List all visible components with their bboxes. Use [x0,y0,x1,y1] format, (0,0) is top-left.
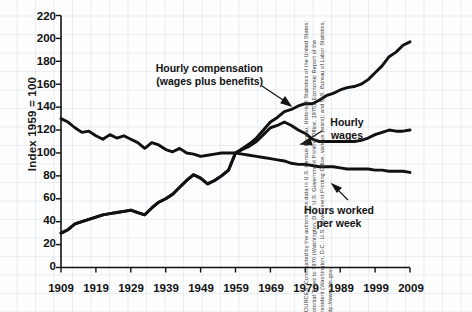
chart-page: Index 1959 = 100 220 200 180 160 140 120… [0,0,472,312]
source-note: SOURCES: Constructed by the authors from… [302,16,334,312]
series-group [61,42,410,233]
series-line-hourly-wages [61,122,410,233]
axes-group [56,16,410,273]
chart-plot [0,0,472,312]
series-line-hours-worked [61,119,410,173]
compensation-arrow-head [281,97,291,106]
source-note-text: SOURCES: Constructed by the authors from… [302,16,334,312]
